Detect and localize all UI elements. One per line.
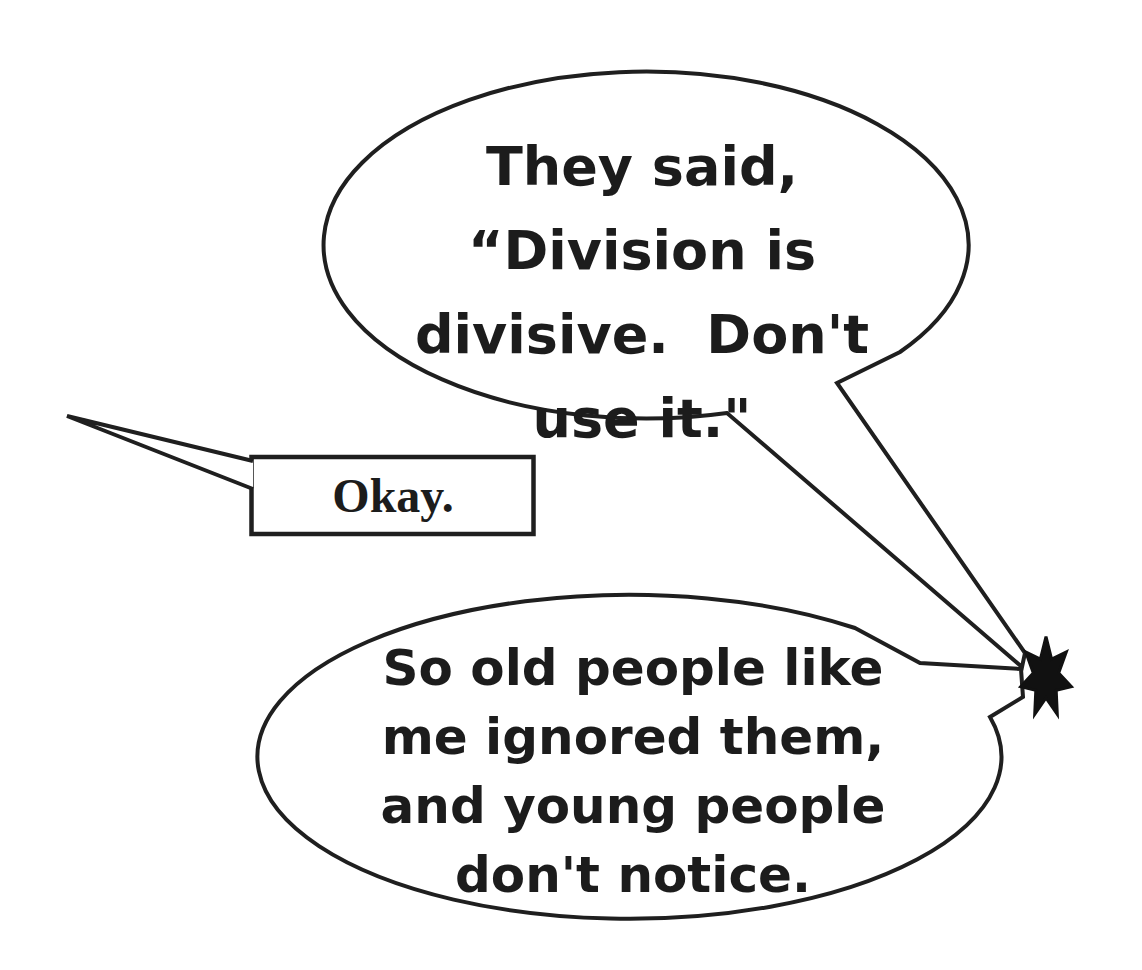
top-bubble-line-4: use it." — [342, 377, 942, 461]
cartoon-canvas: They said, “Division is divisive. Don't … — [0, 0, 1142, 970]
top-bubble-line-2: “Division is — [342, 209, 942, 293]
top-bubble-text: They said, “Division is divisive. Don't … — [342, 125, 942, 461]
top-bubble-line-3: divisive. Don't — [342, 293, 942, 377]
okay-callout-label: Okay. — [253, 457, 533, 534]
bottom-bubble-line-4: don't notice. — [333, 841, 933, 910]
bottom-bubble-line-2: me ignored them, — [333, 703, 933, 772]
top-bubble-line-1: They said, — [342, 125, 942, 209]
bottom-bubble-line-1: So old people like — [333, 634, 933, 703]
bottom-bubble-text: So old people like me ignored them, and … — [333, 634, 933, 910]
okay-callout-tail — [67, 416, 253, 489]
bottom-bubble-line-3: and young people — [333, 772, 933, 841]
star-icon — [1021, 637, 1072, 715]
